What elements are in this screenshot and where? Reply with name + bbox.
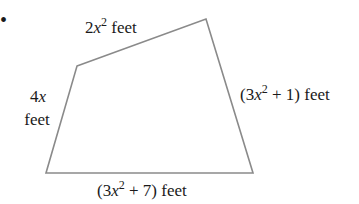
bottom-open: (3 xyxy=(97,181,111,200)
right-side-label: (3x2 + 1) feet xyxy=(240,82,330,104)
quadrilateral-diagram: • 2x2 feet 4x feet (3x2 + 1) feet (3x2 +… xyxy=(0,0,359,204)
top-coef: 2 xyxy=(85,18,94,37)
left-side-label-line1: 4x xyxy=(30,87,47,106)
right-rest: + 1) feet xyxy=(268,85,330,104)
left-var: x xyxy=(37,87,46,106)
top-side-label: 2x2 feet xyxy=(85,15,137,37)
quadrilateral-shape xyxy=(46,19,253,173)
left-side-label-line2: feet xyxy=(24,110,50,129)
bullet-marker: • xyxy=(0,9,7,31)
right-open: (3 xyxy=(240,85,254,104)
top-unit: feet xyxy=(107,18,137,37)
bottom-side-label: (3x2 + 7) feet xyxy=(97,178,187,200)
bottom-rest: + 7) feet xyxy=(125,181,187,200)
